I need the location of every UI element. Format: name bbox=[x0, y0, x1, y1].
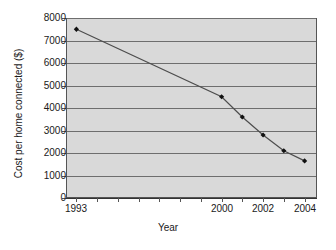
series-markers bbox=[74, 27, 307, 164]
data-point-marker bbox=[302, 158, 307, 163]
series-line bbox=[76, 29, 304, 161]
y-axis-title: Cost per home connected ($) bbox=[13, 34, 24, 194]
data-point-marker bbox=[74, 27, 79, 32]
line-chart: 800070006000500040003000200010000 199320… bbox=[0, 0, 336, 250]
x-axis-title: Year bbox=[0, 222, 336, 233]
data-series-layer bbox=[0, 0, 336, 250]
